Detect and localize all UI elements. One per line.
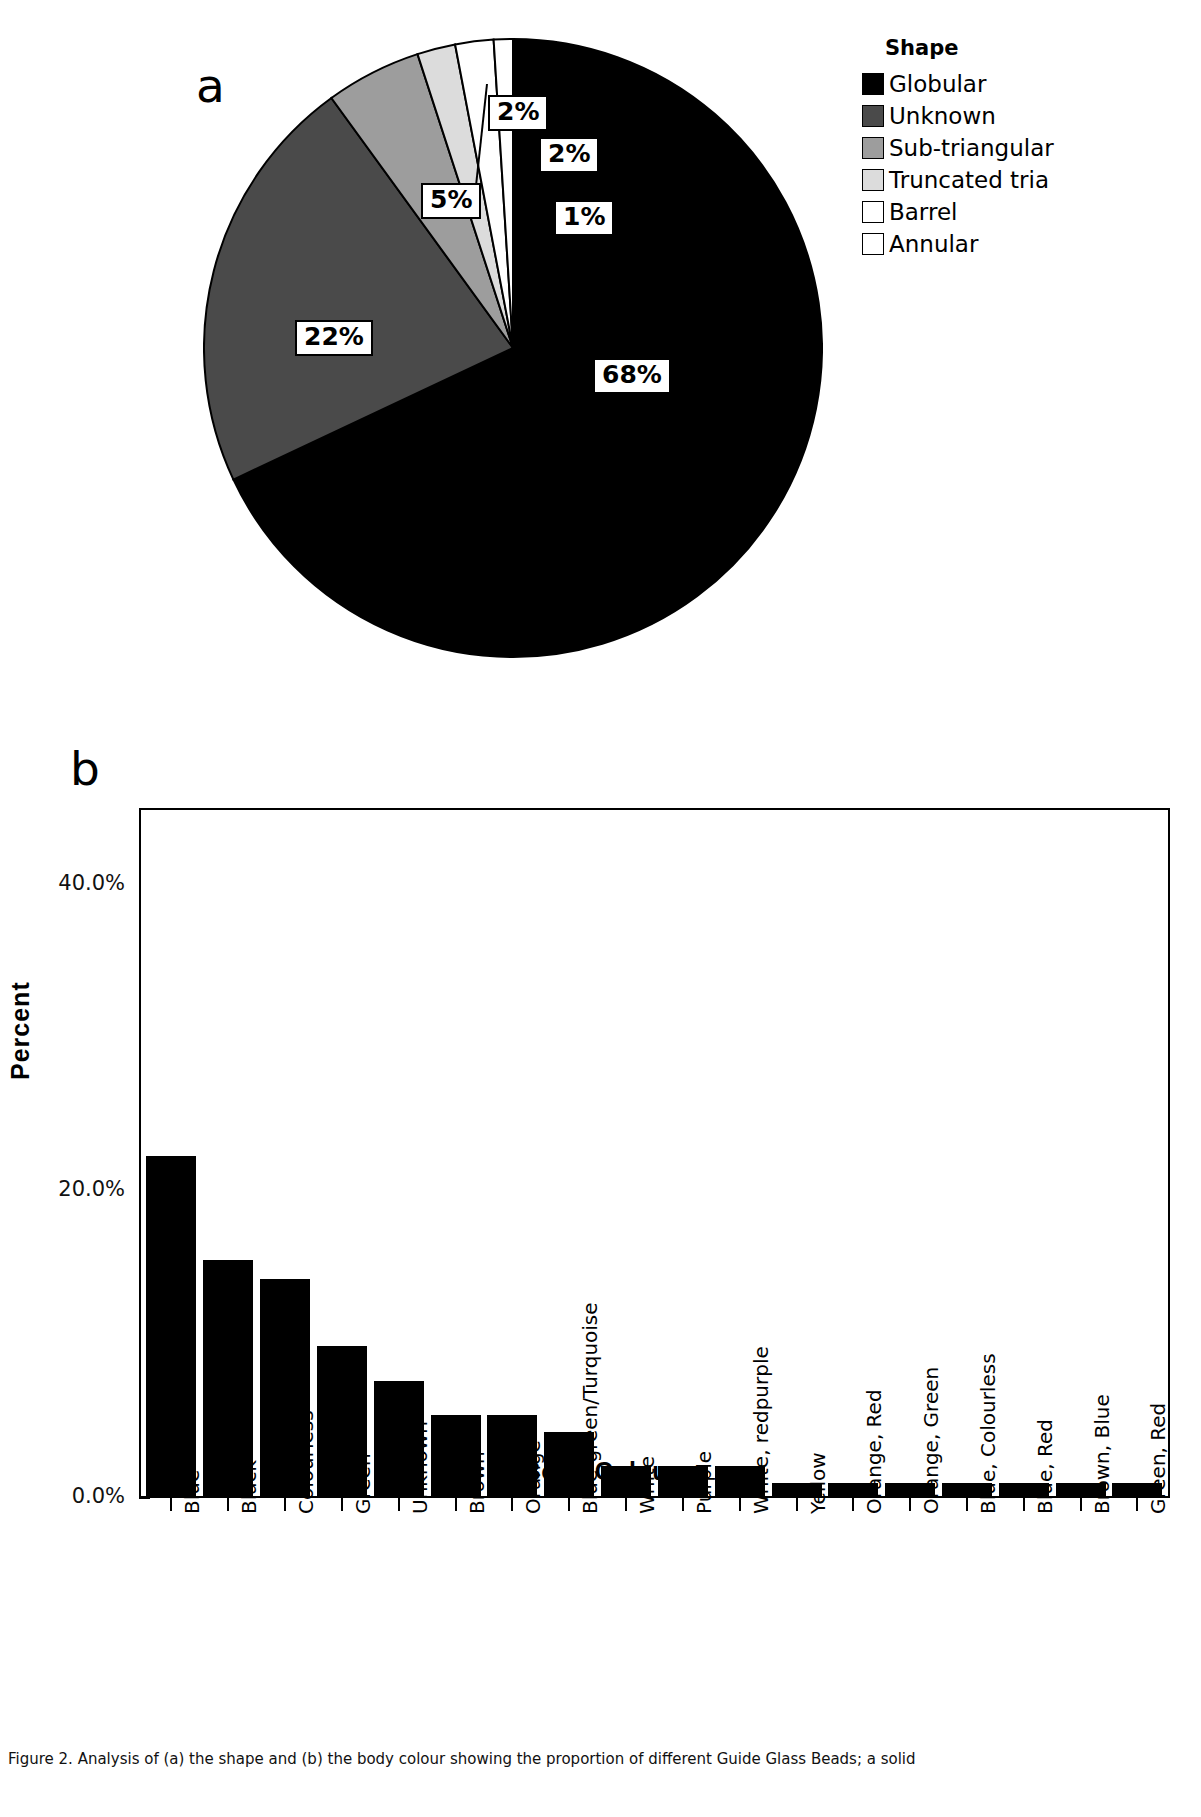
x-axis-tick-label: Orange, Red xyxy=(862,1389,886,1514)
legend-item-annular: Annular xyxy=(862,228,1192,260)
bar-cell xyxy=(427,808,484,1498)
legend-item-truncated-tria: Truncated tria xyxy=(862,164,1192,196)
bar-cell xyxy=(370,808,427,1498)
legend-item-label: Sub-triangular xyxy=(889,137,1054,160)
pie-data-label-truncated-tria: 2% xyxy=(488,95,548,131)
x-axis-tick-mark xyxy=(511,1498,513,1511)
x-axis-tick-label: Orange, Green xyxy=(919,1367,943,1514)
x-axis-tick-mark xyxy=(568,1498,570,1511)
x-axis-tick-mark xyxy=(1023,1498,1025,1511)
x-axis-tick-mark xyxy=(909,1498,911,1511)
pie-data-label-globular: 68% xyxy=(593,358,671,394)
x-axis-tick-mark xyxy=(284,1498,286,1511)
pie-data-label-barrel: 2% xyxy=(539,137,599,173)
x-axis-tick-mark xyxy=(455,1498,457,1511)
legend-item-label: Truncated tria xyxy=(889,169,1049,192)
legend-swatch-icon xyxy=(862,105,884,127)
legend-title: Shape xyxy=(885,36,1192,60)
pie-legend: Shape GlobularUnknownSub-triangularTrunc… xyxy=(862,36,1192,260)
legend-swatch-icon xyxy=(862,233,884,255)
legend-swatch-icon xyxy=(862,73,884,95)
bar-cell xyxy=(313,808,370,1498)
pie-data-label-unknown: 22% xyxy=(295,320,373,356)
x-axis-title: Body Colour xyxy=(0,1457,1201,1486)
bar-cell xyxy=(257,808,314,1498)
x-axis-tick-mark xyxy=(682,1498,684,1511)
bar-cell xyxy=(768,808,825,1498)
pie-chart: 2% 2% 1% 5% 22% 68% xyxy=(203,36,823,660)
x-axis-tick-mark xyxy=(852,1498,854,1511)
legend-item-label: Unknown xyxy=(889,105,996,128)
bar-cell xyxy=(995,808,1052,1498)
panel-b-label: b xyxy=(70,745,100,792)
bar-cell xyxy=(1109,808,1166,1498)
bar-cell xyxy=(484,808,541,1498)
bar-cell xyxy=(654,808,711,1498)
y-axis-tick-label: 0.0% xyxy=(72,1484,125,1508)
y-axis-tick-label: 20.0% xyxy=(58,1177,125,1201)
bar-cell xyxy=(598,808,655,1498)
pie-data-label-sub-triangular: 5% xyxy=(421,183,481,219)
x-axis-tick-mark xyxy=(1080,1498,1082,1511)
x-axis-tick-mark xyxy=(170,1498,172,1511)
pie-data-label-annular: 1% xyxy=(554,200,614,236)
x-axis-tick-label: Blue, Colourless xyxy=(976,1353,1000,1514)
legend-rows: GlobularUnknownSub-triangularTruncated t… xyxy=(862,68,1192,260)
x-axis-tick-label: Brown, Blue xyxy=(1090,1394,1114,1514)
legend-item-globular: Globular xyxy=(862,68,1192,100)
legend-item-barrel: Barrel xyxy=(862,196,1192,228)
legend-item-label: Barrel xyxy=(889,201,957,224)
bar-series xyxy=(139,808,1170,1498)
bar-cell xyxy=(200,808,257,1498)
bar-cell xyxy=(143,808,200,1498)
panel-a-pie-chart: a 2% 2% 1% 5% 22% 68% Shape GlobularUnkn… xyxy=(0,0,1201,700)
legend-swatch-icon xyxy=(862,169,884,191)
y-axis: 0.0%20.0%40.0% xyxy=(0,808,139,1498)
x-axis-tick-mark xyxy=(1136,1498,1138,1511)
x-axis-tick-mark xyxy=(398,1498,400,1511)
legend-item-sub-triangular: Sub-triangular xyxy=(862,132,1192,164)
bar-blue xyxy=(146,1156,196,1498)
y-axis-tick-label: 40.0% xyxy=(58,871,125,895)
legend-item-label: Globular xyxy=(889,73,986,96)
x-axis-tick-mark xyxy=(796,1498,798,1511)
x-axis-tick-mark xyxy=(739,1498,741,1511)
x-axis-tick-mark xyxy=(341,1498,343,1511)
legend-item-label: Annular xyxy=(889,233,978,256)
legend-swatch-icon xyxy=(862,137,884,159)
x-axis-tick-label: White, redpurple xyxy=(749,1346,773,1514)
x-axis-tick-mark xyxy=(227,1498,229,1511)
x-axis-tick-mark xyxy=(966,1498,968,1511)
legend-swatch-icon xyxy=(862,201,884,223)
panel-b-bar-chart: b Percent 0.0%20.0%40.0% BlueBlackColour… xyxy=(0,700,1201,1710)
figure-caption: Figure 2. Analysis of (a) the shape and … xyxy=(8,1750,1193,1769)
x-axis-tick-mark xyxy=(625,1498,627,1511)
legend-item-unknown: Unknown xyxy=(862,100,1192,132)
